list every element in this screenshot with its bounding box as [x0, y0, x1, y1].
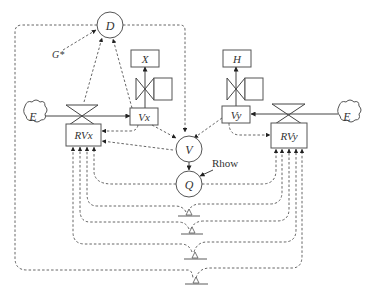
node-H: H: [223, 50, 251, 67]
node-Q: Q: [176, 171, 202, 197]
node-D: D: [97, 12, 123, 38]
node-X: X: [131, 50, 159, 67]
valve-x-actuator: [136, 67, 172, 108]
edge-ground1-to-RVx: [87, 147, 186, 212]
ground-3: [184, 252, 207, 259]
svg-text:E: E: [342, 110, 351, 124]
edge-Vx-to-V: [152, 125, 176, 138]
svg-text:D: D: [105, 19, 115, 33]
edge-ground3-to-RVx: [73, 147, 192, 252]
node-RVx: RVx: [66, 124, 101, 146]
node-V: V: [176, 136, 202, 162]
label-Rhow: Rhow: [212, 157, 238, 169]
svg-text:RVx: RVx: [73, 129, 92, 141]
ground-1: [178, 209, 200, 216]
edge-Vy-to-V: [194, 118, 222, 138]
edge-Rhow-to-Q: [200, 170, 213, 176]
edge-Vx-to-RVx: [102, 125, 138, 131]
edge-ground3-to-RVy: [194, 149, 296, 252]
edge-ground2-to-RVx: [80, 147, 189, 229]
ground-4: [185, 277, 208, 284]
edge-ground2-to-RVy: [191, 149, 289, 229]
svg-text:H: H: [232, 53, 242, 65]
node-E-left: E: [24, 100, 47, 124]
diagram: D G* X H E RVx Vx: [0, 0, 370, 297]
svg-text:X: X: [141, 53, 150, 65]
label-G-star: G*: [52, 49, 64, 60]
edge-G-to-D: [63, 30, 96, 50]
node-E-right: E: [338, 100, 361, 124]
edge-Vx-to-D: [113, 39, 132, 108]
edge-Vy-to-RVy: [229, 123, 270, 135]
svg-text:Vy: Vy: [231, 109, 242, 121]
svg-text:E: E: [28, 110, 37, 124]
svg-text:Vx: Vx: [138, 111, 150, 123]
node-Vx: Vx: [130, 108, 158, 125]
svg-text:Q: Q: [185, 178, 194, 192]
node-RVy: RVy: [271, 123, 307, 148]
outer-loop-left: [15, 25, 193, 278]
edge-RVx-to-D: [84, 38, 102, 102]
valve-y-actuator: [227, 67, 263, 108]
edge-Q-to-RVx: [94, 147, 176, 184]
node-Vy: Vy: [222, 106, 250, 123]
edge-V-to-RVx: [102, 141, 173, 150]
svg-text:RVy: RVy: [279, 130, 297, 142]
ground-2: [181, 227, 203, 234]
